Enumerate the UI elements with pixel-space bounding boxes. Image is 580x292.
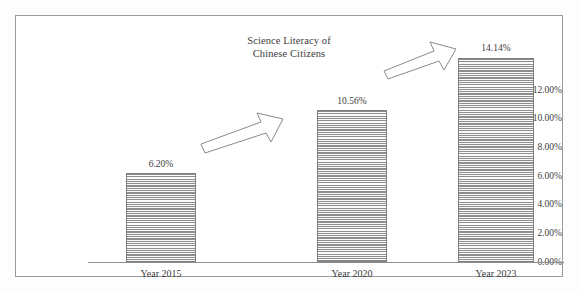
- plot-area: Science Literacy of Chinese Citizens 12.…: [16, 16, 562, 276]
- bar-year-2020[interactable]: [317, 110, 387, 262]
- x-axis-line: [88, 262, 564, 263]
- chart-frame: Science Literacy of Chinese Citizens 12.…: [15, 15, 563, 277]
- chart-page: Science Literacy of Chinese Citizens 12.…: [0, 0, 580, 292]
- bar-value-label-2020: 10.56%: [337, 96, 366, 107]
- bar-year-2023[interactable]: [458, 58, 534, 262]
- growth-arrow-2-icon: [382, 40, 467, 82]
- bar-year-2015[interactable]: [126, 173, 196, 262]
- category-label-2015: Year 2015: [141, 268, 182, 280]
- bar-value-label-2015: 6.20%: [149, 159, 174, 170]
- bar-value-label-2023: 14.14%: [481, 43, 510, 54]
- category-label-2020: Year 2020: [332, 268, 373, 280]
- category-label-2023: Year 2023: [476, 268, 517, 280]
- growth-arrow-1-icon: [199, 111, 299, 156]
